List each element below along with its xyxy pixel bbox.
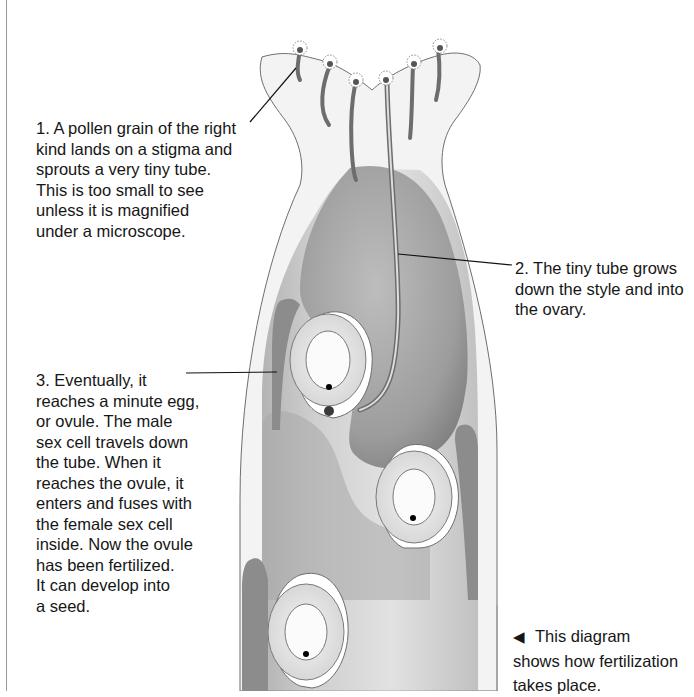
label-step-1: 1. A pollen grain of the right kind land… (36, 118, 236, 241)
label-step-3: 3. Eventually, it reaches a minute egg, … (36, 370, 199, 616)
figure-caption: ◀This diagram shows how fertilization ta… (513, 624, 678, 697)
lobe-left-lower (242, 558, 268, 691)
label-step-2: 2. The tiny tube grows down the style an… (515, 258, 684, 320)
pointer-left-icon: ◀ (513, 628, 525, 645)
figure-caption-text: This diagram shows how fertilization tak… (513, 627, 678, 694)
